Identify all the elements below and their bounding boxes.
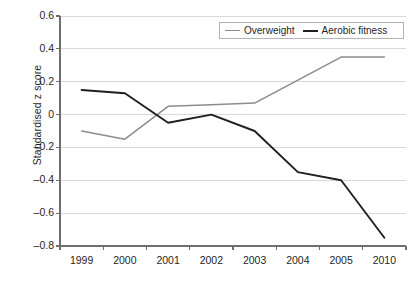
series-line-overweight	[82, 57, 385, 139]
legend-item-aerobic-fitness: Aerobic fitness	[303, 25, 388, 36]
legend-label-aerobic-fitness: Aerobic fitness	[322, 25, 388, 36]
y-axis-tick-label: –0.8	[24, 239, 54, 251]
y-axis-tick-label: 0	[24, 108, 54, 120]
legend-item-overweight: Overweight	[225, 25, 295, 36]
y-axis-tick-label: 0.6	[24, 9, 54, 21]
y-axis-tick-labels: 0.60.40.20–0.2–0.4–0.6–0.8	[22, 0, 54, 281]
chart-figure: Standardised z score 0.60.40.20–0.2–0.4–…	[0, 0, 418, 281]
series-line-aerobic-fitness	[82, 90, 385, 238]
legend-line-overweight	[225, 30, 240, 31]
legend-line-aerobic-fitness	[303, 30, 318, 32]
legend-label-overweight: Overweight	[244, 25, 295, 36]
y-axis-tick-label: –0.6	[24, 206, 54, 218]
x-axis-tick-label: 2010	[363, 254, 405, 266]
x-axis-tick-label: 2003	[234, 254, 276, 266]
y-axis-tick-label: 0.4	[24, 42, 54, 54]
x-axis-tick-label: 2004	[277, 254, 319, 266]
x-axis-tick-label: 2005	[320, 254, 362, 266]
x-axis-tick-label: 2002	[190, 254, 232, 266]
x-axis-tick-label: 2001	[147, 254, 189, 266]
chart-legend: Overweight Aerobic fitness	[219, 22, 404, 39]
y-axis-tick-label: –0.2	[24, 140, 54, 152]
x-axis-tick-label: 1999	[61, 254, 103, 266]
y-axis-tick-label: 0.2	[24, 75, 54, 87]
x-axis-tick-label: 2000	[104, 254, 146, 266]
y-axis-tick-label: –0.4	[24, 173, 54, 185]
chart-plot-area	[0, 0, 418, 281]
